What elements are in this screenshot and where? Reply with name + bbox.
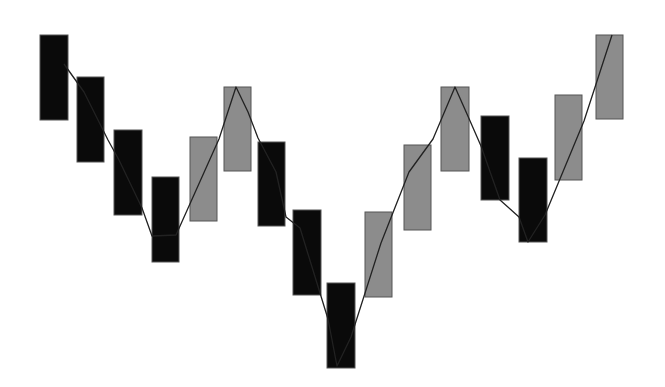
box-6-up (224, 87, 251, 171)
box-2-down (77, 77, 104, 162)
box-12-up (441, 87, 469, 171)
box-7-down (258, 142, 285, 226)
box-4-down (152, 177, 179, 262)
box-15-up (555, 95, 582, 180)
box-1-down (40, 35, 68, 120)
box-11-up (404, 145, 431, 230)
renko-chart (0, 0, 665, 387)
box-series (40, 35, 623, 368)
box-9-down (327, 283, 355, 368)
box-3-down (114, 130, 142, 215)
box-5-up (190, 137, 217, 221)
box-16-up (596, 35, 623, 119)
chart-plot-area (0, 0, 665, 387)
